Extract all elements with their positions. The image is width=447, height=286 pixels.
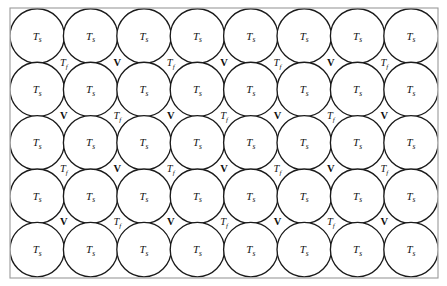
fluid-temperature-label: Tf <box>274 57 283 71</box>
fluid-temperature-label: Tf <box>274 163 283 177</box>
volume-label: V <box>220 57 228 68</box>
fluid-temperature-label: Tf <box>167 57 176 71</box>
fluid-temperature-label: Tf <box>113 216 122 230</box>
volume-label: V <box>60 110 68 121</box>
fluid-temperature-label: Tf <box>60 163 69 177</box>
circles-layer <box>10 9 438 277</box>
packing-svg: TsTsTsTsTsTsTsTsTsTsTsTsTsTsTsTsTsTsTsTs… <box>0 0 447 286</box>
fluid-temperature-label: Tf <box>327 110 336 124</box>
volume-label: V <box>327 57 335 68</box>
volume-label: V <box>381 110 389 121</box>
volume-label: V <box>60 216 68 227</box>
fluid-temperature-label: Tf <box>220 110 229 124</box>
volume-label: V <box>274 216 282 227</box>
fluid-temperature-label: Tf <box>380 163 389 177</box>
sphere-packing-diagram: TsTsTsTsTsTsTsTsTsTsTsTsTsTsTsTsTsTsTsTs… <box>0 0 447 286</box>
fluid-temperature-label: Tf <box>60 57 69 71</box>
volume-label: V <box>167 216 175 227</box>
fluid-temperature-label: Tf <box>113 110 122 124</box>
fluid-temperature-label: Tf <box>220 216 229 230</box>
fluid-temperature-label: Tf <box>327 216 336 230</box>
volume-label: V <box>381 216 389 227</box>
volume-label: V <box>114 163 122 174</box>
volume-label: V <box>220 163 228 174</box>
volume-label: V <box>167 110 175 121</box>
fluid-temperature-label: Tf <box>167 163 176 177</box>
fluid-temperature-label: Tf <box>380 57 389 71</box>
volume-label: V <box>274 110 282 121</box>
volume-label: V <box>327 163 335 174</box>
volume-label: V <box>114 57 122 68</box>
